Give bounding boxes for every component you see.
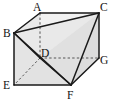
- vertex-label-D: D: [41, 47, 49, 59]
- geometry-figure: A B C D E F G: [0, 0, 116, 104]
- vertex-label-C: C: [100, 1, 108, 13]
- cube-diagram: A B C D E F G: [0, 0, 116, 104]
- vertex-label-G: G: [100, 54, 108, 66]
- vertex-label-F: F: [67, 89, 73, 101]
- vertex-label-A: A: [33, 1, 42, 13]
- vertex-label-E: E: [3, 79, 10, 91]
- vertex-label-B: B: [3, 27, 11, 39]
